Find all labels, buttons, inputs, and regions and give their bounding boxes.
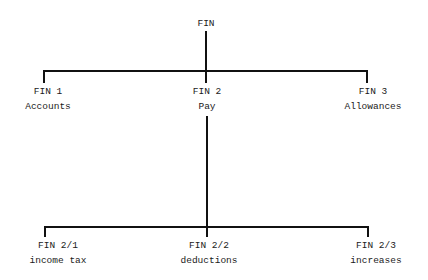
node-fin2-3: FIN 2/3 increases xyxy=(350,238,401,268)
node-fin2-3-code: FIN 2/3 xyxy=(350,238,401,253)
node-fin2: FIN 2 Pay xyxy=(193,84,222,114)
connector-fin2-3-drop xyxy=(367,226,369,237)
node-fin1-label: Accounts xyxy=(25,99,71,114)
node-fin2-label: Pay xyxy=(193,99,222,114)
connector-fin2-drop xyxy=(205,70,207,83)
node-root: FIN xyxy=(197,16,214,31)
node-fin2-code: FIN 2 xyxy=(193,84,222,99)
connector-fin2-1-drop xyxy=(44,226,46,237)
node-fin3: FIN 3 Allowances xyxy=(344,84,401,114)
node-fin2-1-code: FIN 2/1 xyxy=(29,238,86,253)
connector-root-vertical xyxy=(205,31,207,72)
hierarchy-diagram: FIN FIN 1 Accounts FIN 2 Pay FIN 3 Allow… xyxy=(0,0,428,280)
node-fin2-1-label: income tax xyxy=(29,253,86,268)
node-fin2-2-label: deductions xyxy=(180,253,237,268)
node-fin2-2-code: FIN 2/2 xyxy=(180,238,237,253)
node-fin2-2: FIN 2/2 deductions xyxy=(180,238,237,268)
node-fin2-3-label: increases xyxy=(350,253,401,268)
node-fin2-1: FIN 2/1 income tax xyxy=(29,238,86,268)
node-fin1-code: FIN 1 xyxy=(25,84,71,99)
connector-fin2-2-drop xyxy=(206,226,208,237)
node-fin3-code: FIN 3 xyxy=(344,84,401,99)
node-root-code: FIN xyxy=(197,16,214,31)
connector-fin2-vertical xyxy=(206,116,208,228)
connector-fin1-drop xyxy=(43,70,45,83)
connector-fin3-drop xyxy=(366,70,368,83)
node-fin1: FIN 1 Accounts xyxy=(25,84,71,114)
node-fin3-label: Allowances xyxy=(344,99,401,114)
